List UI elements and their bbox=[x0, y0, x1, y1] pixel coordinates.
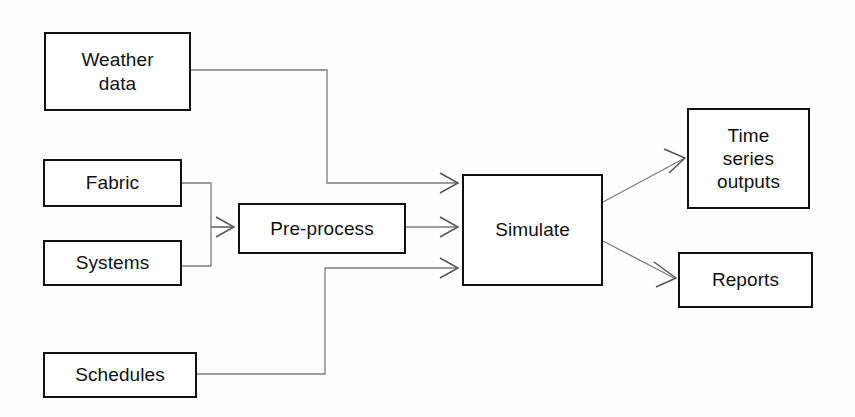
edge-systems-to-preprocess bbox=[182, 217, 234, 266]
arrowhead-icon bbox=[664, 149, 685, 173]
edge-simulate-to-reports bbox=[603, 241, 676, 287]
node-weather-data[interactable]: Weather data bbox=[44, 32, 191, 111]
node-reports-label: Reports bbox=[708, 268, 783, 291]
node-schedules[interactable]: Schedules bbox=[43, 352, 197, 398]
edge-weather-to-simulate bbox=[191, 70, 458, 193]
edge-schedules-to-simulate bbox=[197, 258, 458, 374]
node-weather-data-label: Weather data bbox=[77, 48, 157, 94]
edge-preprocess-to-simulate bbox=[406, 217, 458, 237]
node-time-series-outputs[interactable]: Time series outputs bbox=[687, 108, 810, 209]
node-simulate[interactable]: Simulate bbox=[462, 174, 603, 286]
node-simulate-label: Simulate bbox=[491, 218, 574, 241]
node-systems-label: Systems bbox=[72, 251, 154, 274]
node-schedules-label: Schedules bbox=[71, 363, 169, 386]
node-pre-process[interactable]: Pre-process bbox=[238, 203, 406, 254]
node-fabric-label: Fabric bbox=[82, 171, 143, 194]
edge-fabric-to-preprocess bbox=[182, 183, 232, 227]
node-pre-process-label: Pre-process bbox=[266, 217, 378, 240]
node-systems[interactable]: Systems bbox=[43, 240, 182, 286]
edge-simulate-to-timeseries bbox=[603, 149, 685, 202]
workflow-diagram: Weather data Fabric Systems Schedules Pr… bbox=[0, 0, 855, 417]
arrowhead-icon bbox=[654, 262, 676, 287]
node-fabric[interactable]: Fabric bbox=[43, 159, 182, 207]
node-reports[interactable]: Reports bbox=[678, 252, 813, 308]
node-time-series-outputs-label: Time series outputs bbox=[713, 124, 784, 194]
